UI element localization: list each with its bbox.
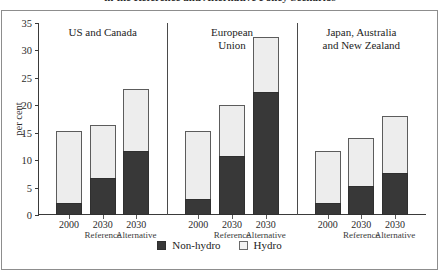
y-tick-mark xyxy=(35,133,39,134)
y-tick-mark xyxy=(35,215,39,216)
panel-title: US and Canada xyxy=(38,26,167,39)
x-tick-year: 2030 xyxy=(241,219,291,230)
legend-item-hydro: Hydro xyxy=(239,239,282,251)
bar-stack xyxy=(382,116,408,215)
bar-segment-nonhydro xyxy=(90,178,116,215)
y-tick-label: 15 xyxy=(8,127,32,138)
bar-stack xyxy=(56,131,82,215)
legend-swatch-hydro-icon xyxy=(239,241,248,250)
y-tick-mark xyxy=(35,78,39,79)
bar-stack xyxy=(90,125,116,215)
y-tick-mark xyxy=(35,23,39,24)
bar-stack xyxy=(315,151,341,215)
figure-title: in the Reference and Alternative Policy … xyxy=(0,0,440,3)
bar-stack xyxy=(348,138,374,215)
legend: Non-hydro Hydro xyxy=(2,239,437,251)
y-tick-label: 35 xyxy=(8,18,32,29)
x-tick-year: 2030 xyxy=(370,219,420,230)
x-tick-year: 2030 xyxy=(111,219,161,230)
legend-swatch-nonhydro-icon xyxy=(157,241,166,250)
bar-segment-nonhydro xyxy=(219,156,245,215)
bar-stack xyxy=(123,89,149,215)
y-tick-mark xyxy=(35,188,39,189)
bar-stack xyxy=(185,131,211,215)
y-tick-mark xyxy=(35,105,39,106)
y-tick-label: 0 xyxy=(8,210,32,221)
panel-title: Japan, Australia and New Zealand xyxy=(297,26,426,52)
figure-title-strip: in the Reference and Alternative Policy … xyxy=(0,0,440,9)
y-tick-label: 20 xyxy=(8,100,32,111)
y-tick-label: 5 xyxy=(8,182,32,193)
bar-segment-nonhydro xyxy=(253,92,279,215)
bar-stack xyxy=(253,37,279,215)
y-tick-label: 10 xyxy=(8,155,32,166)
figure-frame: per cent 05101520253035 US and CanadaEur… xyxy=(1,10,438,270)
legend-label-nonhydro: Non-hydro xyxy=(172,239,220,251)
bar-segment-nonhydro xyxy=(348,186,374,215)
y-axis-line xyxy=(38,23,39,215)
bar-stack xyxy=(219,105,245,215)
y-tick-mark xyxy=(35,160,39,161)
plot-area: per cent 05101520253035 US and CanadaEur… xyxy=(38,23,426,215)
figure-container: in the Reference and Alternative Policy … xyxy=(0,0,440,272)
bar-segment-nonhydro xyxy=(185,199,211,215)
y-tick-mark xyxy=(35,50,39,51)
bar-segment-nonhydro xyxy=(56,203,82,215)
bar-segment-nonhydro xyxy=(123,151,149,215)
y-tick-label: 25 xyxy=(8,72,32,83)
legend-item-nonhydro: Non-hydro xyxy=(157,239,220,251)
legend-label-hydro: Hydro xyxy=(254,239,282,251)
bar-segment-nonhydro xyxy=(315,203,341,215)
y-tick-label: 30 xyxy=(8,45,32,56)
bar-segment-nonhydro xyxy=(382,173,408,215)
